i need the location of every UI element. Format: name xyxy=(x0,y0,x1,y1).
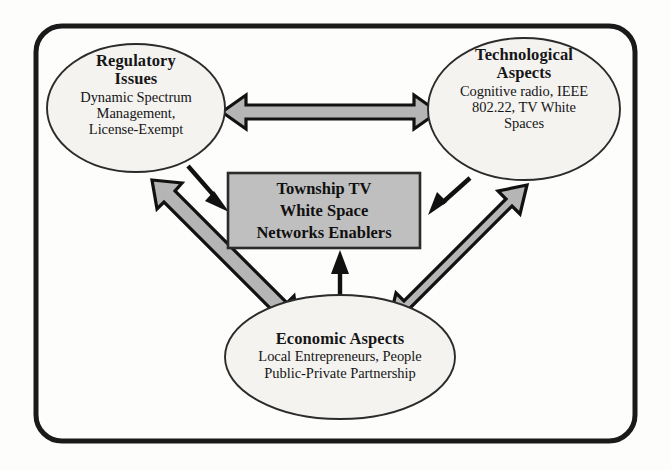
node-regulatory[interactable] xyxy=(47,44,225,172)
node-economic[interactable] xyxy=(225,295,455,419)
connector-technological-to-center xyxy=(428,178,470,215)
center-box[interactable] xyxy=(228,173,420,248)
connector-regulatory-to-center xyxy=(188,166,229,212)
node-technological[interactable] xyxy=(428,38,620,180)
diagram-canvas: Regulatory Issues Dynamic Spectrum Manag… xyxy=(0,0,671,470)
diagram-svg xyxy=(0,0,671,470)
connector-economic-to-center xyxy=(331,250,349,298)
connector-regulatory-technological xyxy=(222,95,438,129)
